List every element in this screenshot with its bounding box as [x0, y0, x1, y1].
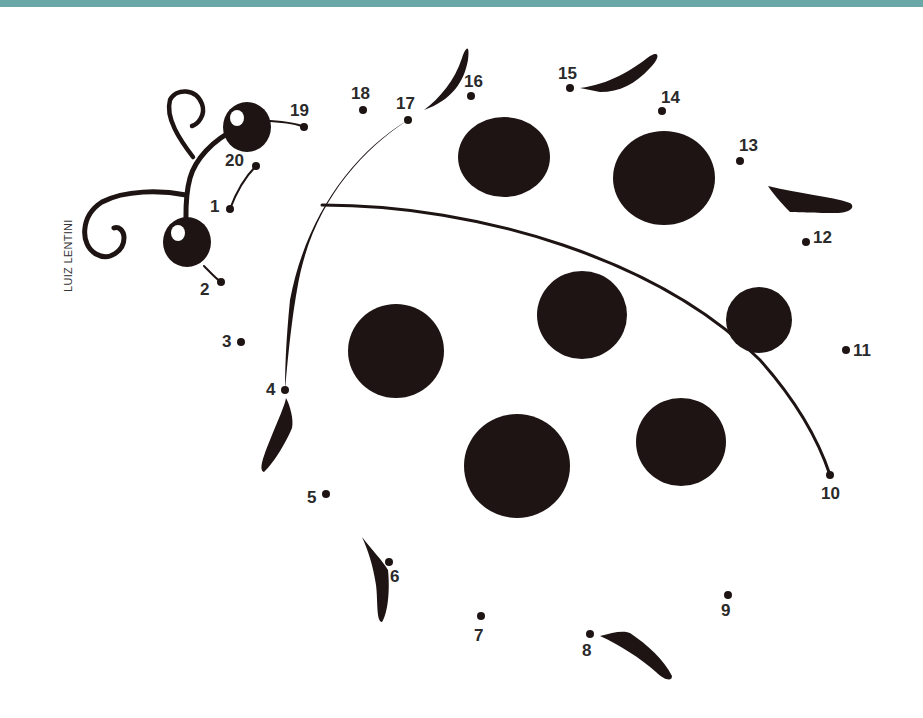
dot-marker[interactable] — [226, 205, 234, 213]
dot-13[interactable]: 13 — [736, 136, 758, 165]
ladybug-spot — [613, 131, 715, 225]
dot-number-label: 16 — [464, 72, 483, 91]
dot-19[interactable]: 19 — [290, 101, 309, 131]
dot-16[interactable]: 16 — [464, 72, 483, 100]
spots — [348, 117, 792, 518]
wing-fragment-15 — [580, 54, 658, 92]
dot-marker[interactable] — [842, 346, 850, 354]
dot-number-label: 2 — [200, 280, 209, 299]
dot-number-label: 11 — [853, 341, 871, 360]
guide-20-1 — [230, 166, 256, 209]
dot-marker[interactable] — [467, 92, 475, 100]
dot-number-label: 6 — [390, 567, 399, 586]
dot-15[interactable]: 15 — [558, 64, 577, 92]
dot-9[interactable]: 9 — [721, 591, 732, 620]
dot-7[interactable]: 7 — [474, 612, 485, 645]
ladybug-spot — [464, 414, 570, 518]
dot-marker[interactable] — [736, 157, 744, 165]
dot-marker[interactable] — [658, 107, 666, 115]
dot-number-label: 9 — [721, 601, 730, 620]
dot-number-label: 8 — [582, 641, 591, 660]
dot-marker[interactable] — [826, 471, 834, 479]
dot-marker[interactable] — [802, 238, 810, 246]
dot-marker[interactable] — [477, 612, 485, 620]
dot-number-label: 5 — [307, 488, 316, 507]
dot-number-label: 17 — [396, 94, 415, 113]
wing-fragment-13 — [768, 186, 852, 213]
dot-marker[interactable] — [217, 278, 225, 286]
ladybug-spot — [726, 287, 792, 353]
dot-number-label: 13 — [739, 136, 758, 155]
dot-marker[interactable] — [586, 630, 594, 638]
ladybug-spot — [636, 398, 726, 486]
dot-5[interactable]: 5 — [307, 488, 330, 507]
dot-marker[interactable] — [281, 386, 289, 394]
dot-number-label: 1 — [210, 197, 219, 216]
dot-marker[interactable] — [404, 116, 412, 124]
dot-11[interactable]: 11 — [842, 341, 871, 360]
dot-number-label: 12 — [813, 228, 832, 247]
dot-number-label: 4 — [266, 380, 276, 399]
dot-number-label: 7 — [474, 626, 483, 645]
leg-fragment-8 — [600, 632, 672, 680]
dot-1[interactable]: 1 — [210, 197, 234, 216]
dot-17[interactable]: 17 — [396, 94, 415, 124]
ladybug-spot — [537, 271, 627, 359]
dot-marker[interactable] — [322, 490, 330, 498]
dot-number-label: 18 — [351, 84, 370, 103]
dot-marker[interactable] — [237, 338, 245, 346]
dot-marker[interactable] — [566, 84, 574, 92]
dot-number-label: 14 — [661, 88, 680, 107]
dot-marker[interactable] — [252, 162, 260, 170]
antennae — [85, 91, 238, 256]
dot-10[interactable]: 10 — [821, 471, 840, 503]
dot-number-label: 19 — [290, 101, 309, 120]
guide-19 — [270, 121, 304, 127]
dot-number-label: 20 — [225, 151, 244, 170]
dot-marker[interactable] — [359, 106, 367, 114]
eye-upper — [223, 102, 271, 152]
dot-number-label: 15 — [558, 64, 577, 83]
dot-12[interactable]: 12 — [802, 228, 832, 247]
dot-18[interactable]: 18 — [351, 84, 370, 114]
ladybug-worksheet: LUIZ LENTINI 123456789101112131415161718… — [0, 0, 923, 718]
dot-8[interactable]: 8 — [582, 630, 594, 660]
artist-credit: LUIZ LENTINI — [62, 219, 74, 292]
dot-20[interactable]: 20 — [225, 151, 260, 170]
dot-14[interactable]: 14 — [658, 88, 680, 115]
dot-number-label: 3 — [222, 332, 231, 351]
dot-marker[interactable] — [385, 558, 393, 566]
ladybug-spot — [348, 304, 444, 398]
dot-2[interactable]: 2 — [200, 278, 225, 299]
dot-3[interactable]: 3 — [222, 332, 245, 351]
dot-marker[interactable] — [724, 591, 732, 599]
leg-fragment-4 — [262, 398, 293, 472]
eye-lower — [163, 217, 211, 267]
ladybug-spot — [458, 117, 550, 197]
leg-fragment-6 — [362, 537, 389, 622]
dot-number-label: 10 — [821, 484, 840, 503]
wing-fragment-top — [424, 49, 469, 111]
dot-marker[interactable] — [300, 123, 308, 131]
